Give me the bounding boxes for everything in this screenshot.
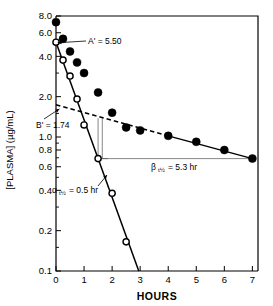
x-tick-label: 2 (109, 274, 114, 285)
y-tick-label: 2.0 (39, 91, 52, 102)
x-tick-label: 4 (166, 274, 171, 285)
annotation-a-prime: A' = 5.50 (88, 36, 122, 46)
residual-point (60, 57, 66, 63)
residual-point (81, 122, 87, 128)
residual-point (109, 190, 115, 196)
annotation-alpha-half-life: α t½ = 0.5 hr (52, 185, 98, 196)
residual-point (74, 96, 80, 102)
observed-point (122, 123, 130, 131)
observed-data-points (52, 18, 256, 162)
observed-point (248, 155, 256, 163)
y-tick-label: 6.0 (39, 27, 52, 38)
x-axis-title: HOURS (137, 290, 177, 302)
x-tick-label: 5 (194, 274, 199, 285)
y-tick-label: 8.0 (39, 10, 52, 21)
y-tick-label: 0.4 (39, 185, 52, 196)
alpha-subscript: t½ (59, 190, 66, 196)
x-tick-label: 3 (138, 274, 143, 285)
beta-symbol: β (151, 162, 156, 172)
observed-point (192, 138, 200, 146)
alpha-half-life-step (98, 118, 108, 158)
observed-point (220, 146, 228, 154)
terminal-beta-line (168, 136, 252, 159)
observed-point (108, 109, 116, 117)
chart-canvas: 8.06.04.02.01.00.80.60.40.20.1 01234567 … (0, 0, 273, 306)
beta-subscript: t½ (158, 167, 165, 173)
y-tick-label: 0.8 (39, 144, 52, 155)
residual-point (95, 156, 101, 162)
y-tick-label: 1.0 (39, 131, 52, 142)
observed-point (164, 132, 172, 140)
y-axis-title: [PLASMA] (µg/mL) (4, 110, 15, 189)
x-axis-tick-labels: 01234567 (53, 274, 255, 285)
x-tick-label: 1 (81, 274, 86, 285)
x-tick-label: 7 (250, 274, 255, 285)
beta-value: = 5.3 hr (168, 162, 197, 172)
annotation-beta-half-life: β t½ = 5.3 hr (151, 162, 197, 173)
x-axis-ticks (56, 266, 252, 271)
annotation-b-prime: B' = 1.74 (36, 120, 70, 130)
observed-point (73, 58, 81, 66)
y-tick-label: 0.1 (39, 265, 52, 276)
observed-point (52, 18, 60, 26)
x-tick-label: 0 (53, 274, 58, 285)
axis-lines (56, 16, 258, 271)
x-tick-label: 6 (222, 274, 227, 285)
y-tick-label: 4.0 (39, 51, 52, 62)
observed-point (66, 47, 74, 55)
observed-point (136, 126, 144, 134)
residual-point (67, 73, 73, 79)
alpha-value: = 0.5 hr (69, 185, 98, 195)
plasma-concentration-chart: 8.06.04.02.01.00.80.60.40.20.1 01234567 … (0, 0, 273, 306)
plot-border (56, 16, 258, 271)
y-tick-label: 0.2 (39, 225, 52, 236)
residual-point (123, 239, 129, 245)
observed-point (80, 69, 88, 77)
y-tick-label: 0.6 (39, 161, 52, 172)
alpha-symbol: α (52, 185, 57, 195)
residual-point (53, 39, 59, 45)
y-axis-tick-labels: 8.06.04.02.01.00.80.60.40.20.1 (39, 10, 52, 276)
observed-point (94, 88, 102, 96)
plot-frame (56, 16, 258, 271)
